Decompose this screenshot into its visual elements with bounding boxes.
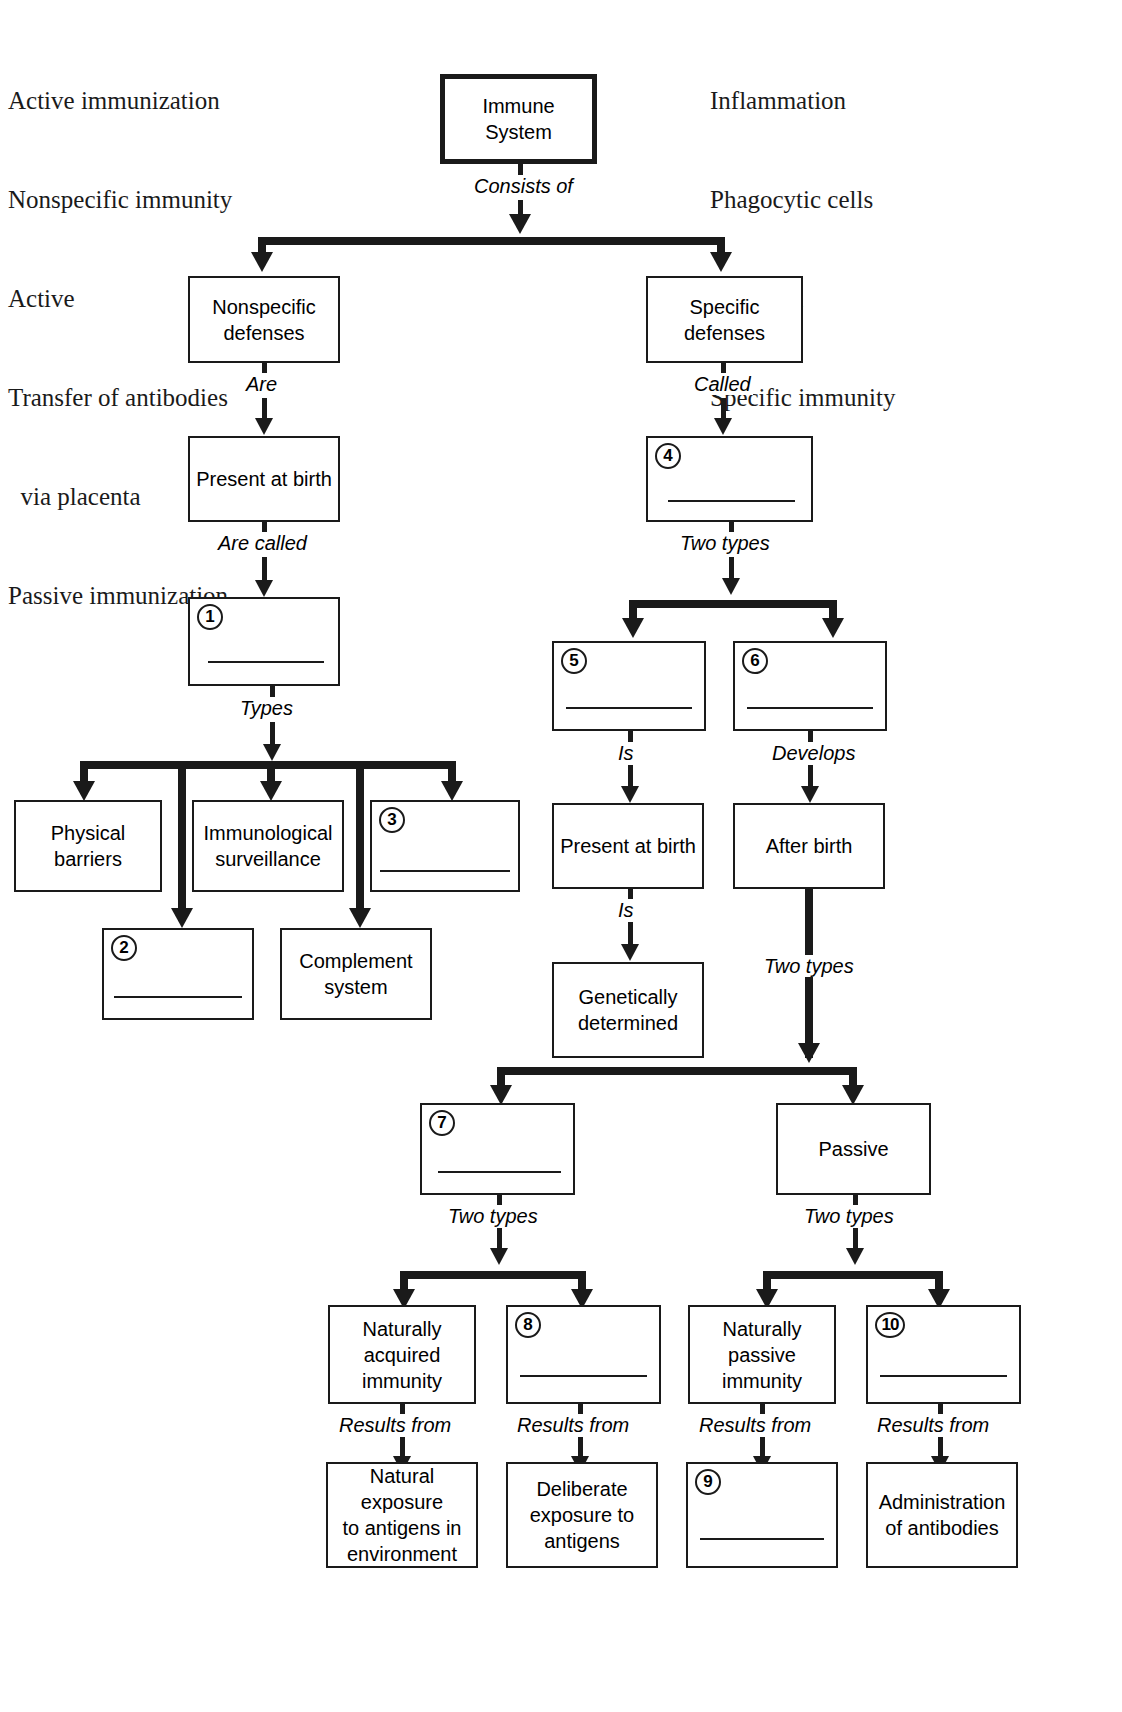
- node-nonspecific-defenses[interactable]: Nonspecific defenses: [188, 276, 340, 363]
- number-circle-3: 3: [379, 807, 405, 833]
- node-naturally-passive-immunity[interactable]: Naturally passive immunity: [688, 1305, 836, 1404]
- node-blank-5[interactable]: 5: [552, 641, 706, 731]
- arrowhead-after-birth: [801, 786, 819, 803]
- edge-label-develops: Develops: [770, 742, 857, 764]
- arrowhead-passive: [842, 1085, 864, 1105]
- edge-label-consists-of: Consists of: [472, 175, 575, 197]
- edge-label-are: Are: [244, 373, 279, 395]
- node-blank-8[interactable]: 8: [506, 1305, 661, 1404]
- arrowhead-blank5: [622, 618, 644, 638]
- arrowhead-blank4: [714, 418, 732, 435]
- arrowhead-root: [509, 214, 531, 234]
- edge-label-two-types-after-birth: Two types: [762, 955, 856, 977]
- arrowhead-immunological-surveillance: [260, 781, 282, 801]
- number-circle-4: 4: [655, 443, 681, 469]
- number-circle-10: 10: [875, 1312, 905, 1338]
- number-circle-9: 9: [695, 1469, 721, 1495]
- connector-branch-complement: [356, 761, 364, 921]
- answer-line-9[interactable]: [700, 1538, 824, 1540]
- arrowhead-split-passive: [846, 1248, 864, 1265]
- node-blank-10[interactable]: 10: [866, 1305, 1021, 1404]
- edge-label-types: Types: [238, 697, 295, 719]
- node-deliberate-exposure[interactable]: Deliberate exposure to antigens: [506, 1462, 658, 1568]
- connector-split-passive: [763, 1271, 943, 1279]
- answer-line-6[interactable]: [747, 707, 873, 709]
- arrowhead-genetically-determined: [621, 944, 639, 961]
- connector-split-level2: [258, 237, 725, 245]
- node-genetically-determined[interactable]: Genetically determined: [552, 962, 704, 1058]
- node-blank-1[interactable]: 1: [188, 597, 340, 686]
- node-blank-3[interactable]: 3: [370, 800, 520, 892]
- number-circle-5: 5: [561, 648, 587, 674]
- node-immunological-surveillance[interactable]: Immunological surveillance: [192, 800, 344, 892]
- word-bank-left-item: Active immunization: [8, 84, 232, 117]
- arrowhead-types-split: [263, 744, 281, 761]
- edge-label-results-from-3: Results from: [697, 1414, 813, 1436]
- arrowhead-nonspecific: [251, 252, 273, 272]
- edge-label-results-from-2: Results from: [515, 1414, 631, 1436]
- connector-split-active: [400, 1271, 586, 1279]
- flowchart-page: p y g p Active immunization Nonspecific …: [0, 0, 1122, 1712]
- arrowhead-specific: [710, 252, 732, 272]
- answer-line-7[interactable]: [438, 1171, 561, 1173]
- node-blank-9[interactable]: 9: [686, 1462, 838, 1568]
- edge-label-two-types-passive: Two types: [802, 1205, 896, 1227]
- answer-line-5[interactable]: [566, 707, 692, 709]
- arrowhead-split-7passive: [798, 1043, 820, 1063]
- node-physical-barriers[interactable]: Physical barriers: [14, 800, 162, 892]
- node-specific-defenses[interactable]: Specific defenses: [646, 276, 803, 363]
- node-after-birth[interactable]: After birth: [733, 803, 885, 889]
- number-circle-8: 8: [515, 1312, 541, 1338]
- node-blank-6[interactable]: 6: [733, 641, 887, 731]
- word-bank-left-item: Nonspecific immunity: [8, 183, 232, 216]
- number-circle-6: 6: [742, 648, 768, 674]
- arrowhead-complement-system: [349, 908, 371, 928]
- node-passive[interactable]: Passive: [776, 1103, 931, 1195]
- node-present-at-birth-left[interactable]: Present at birth: [188, 436, 340, 522]
- word-bank-left-item: Transfer of antibodies: [8, 381, 232, 414]
- connector-branch-blank2: [178, 761, 186, 921]
- arrowhead-blank7: [490, 1085, 512, 1105]
- arrowhead-split-active: [490, 1248, 508, 1265]
- edge-label-two-types-active: Two types: [446, 1205, 540, 1227]
- edge-label-are-called: Are called: [216, 532, 309, 554]
- arrowhead-present-at-birth-right: [621, 786, 639, 803]
- cropped-header-text: p y g p: [330, 0, 710, 8]
- connector-split-7passive: [497, 1067, 857, 1075]
- edge-label-is-right: Is: [616, 899, 636, 921]
- node-natural-exposure[interactable]: Natural exposure to antigens in environm…: [326, 1462, 478, 1568]
- answer-line-10[interactable]: [880, 1375, 1007, 1377]
- node-complement-system[interactable]: Complement system: [280, 928, 432, 1020]
- answer-line-4[interactable]: [668, 500, 795, 502]
- number-circle-1: 1: [197, 604, 223, 630]
- number-circle-7: 7: [429, 1110, 455, 1136]
- node-naturally-acquired-immunity[interactable]: Naturally acquired immunity: [328, 1305, 476, 1404]
- answer-line-1[interactable]: [208, 661, 324, 663]
- arrowhead-blank1: [255, 580, 273, 597]
- word-bank-right-item: Phagocytic cells: [710, 183, 895, 216]
- edge-label-results-from-4: Results from: [875, 1414, 991, 1436]
- edge-label-two-types-specific: Two types: [678, 532, 772, 554]
- word-bank-right-item: Inflammation: [710, 84, 895, 117]
- edge-label-results-from-1: Results from: [337, 1414, 453, 1436]
- arrowhead-blank6: [822, 618, 844, 638]
- answer-line-2[interactable]: [114, 996, 242, 998]
- answer-line-3[interactable]: [380, 870, 510, 872]
- node-present-at-birth-right[interactable]: Present at birth: [552, 803, 704, 889]
- connector-split-56: [629, 600, 837, 608]
- arrowhead-blank2: [171, 908, 193, 928]
- node-blank-7[interactable]: 7: [420, 1103, 575, 1195]
- edge-label-called: Called: [692, 373, 753, 395]
- edge-label-is-left: Is: [616, 742, 636, 764]
- arrowhead-present-at-birth-left: [255, 418, 273, 435]
- node-administration-of-antibodies[interactable]: Administration of antibodies: [866, 1462, 1018, 1568]
- arrowhead-split-56: [722, 578, 740, 595]
- node-blank-4[interactable]: 4: [646, 436, 813, 522]
- number-circle-2: 2: [111, 935, 137, 961]
- node-immune-system[interactable]: Immune System: [440, 74, 597, 164]
- answer-line-8[interactable]: [520, 1375, 647, 1377]
- arrowhead-physical-barriers: [73, 781, 95, 801]
- arrowhead-blank3: [441, 781, 463, 801]
- node-blank-2[interactable]: 2: [102, 928, 254, 1020]
